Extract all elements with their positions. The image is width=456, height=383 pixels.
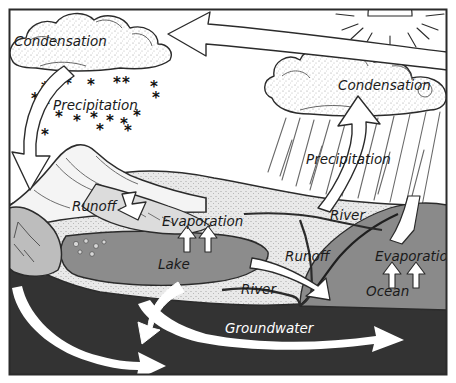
label-condensation-left: Condensation <box>14 33 107 49</box>
svg-text:*: * <box>106 112 114 130</box>
label-runoff-left: Runoff <box>72 198 118 214</box>
label-precipitation-left: Precipitation <box>53 97 138 113</box>
label-precipitation-right: Precipitation <box>306 151 391 167</box>
label-river-upper: River <box>330 207 366 223</box>
svg-text:*: * <box>113 74 121 92</box>
label-groundwater: Groundwater <box>225 320 315 336</box>
label-evaporation-lake: Evaporation <box>162 213 243 229</box>
svg-text:*: * <box>122 74 130 92</box>
svg-text:*: * <box>87 76 95 94</box>
label-runoff-right: Runoff <box>285 248 331 264</box>
diagram-content: *** *** *** *** *** *** <box>9 0 456 380</box>
svg-text:*: * <box>73 112 81 130</box>
svg-text:*: * <box>152 89 160 107</box>
svg-text:*: * <box>124 122 132 140</box>
svg-text:*: * <box>96 121 104 139</box>
water-cycle-diagram: *** *** *** *** *** *** <box>0 0 456 383</box>
label-evaporation-ocean: Evaporation <box>375 248 456 264</box>
svg-text:*: * <box>41 126 49 144</box>
label-lake: Lake <box>158 256 190 272</box>
diagram-canvas: *** *** *** *** *** *** <box>0 0 456 383</box>
label-ocean: Ocean <box>366 283 409 299</box>
label-condensation-right: Condensation <box>338 77 431 93</box>
label-river-lower: River <box>241 281 277 297</box>
